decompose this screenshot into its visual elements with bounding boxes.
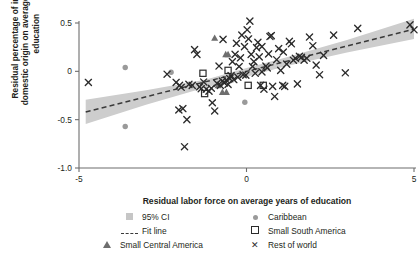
filled-triangle-icon [98, 240, 116, 250]
legend-item-rest-of-world: ✕ Rest of world [246, 240, 317, 250]
filled-circle-icon [246, 212, 264, 222]
legend-item-ci: 95% CI [120, 212, 246, 222]
svg-text:-5: -5 [75, 174, 83, 184]
x-marker-icon: ✕ [246, 240, 264, 250]
legend-label-ci: 95% CI [142, 212, 169, 222]
legend-label-small-central-america: Small Central America [120, 240, 203, 250]
ci-swatch-icon [120, 212, 138, 222]
legend-row: Small Central America ✕ Rest of world [120, 238, 390, 252]
scatter-plot-figure: 0.50-0.5-1.0-505 Residual percentage of … [0, 0, 420, 258]
svg-text:5: 5 [412, 174, 417, 184]
svg-text:0: 0 [67, 66, 72, 76]
legend-label-caribbean: Caribbean [268, 212, 307, 222]
svg-text:0: 0 [244, 174, 249, 184]
legend-row: Fit line Small South America [120, 224, 390, 238]
svg-text:-1.0: -1.0 [58, 163, 73, 173]
legend-item-small-central-america: Small Central America [98, 240, 246, 250]
legend: 95% CI Caribbean Fit line Small South Am… [120, 210, 390, 252]
legend-item-caribbean: Caribbean [246, 212, 307, 222]
x-axis-title: Residual labor force on average years of… [79, 196, 415, 206]
legend-row: 95% CI Caribbean [120, 210, 390, 224]
legend-label-rest-of-world: Rest of world [268, 240, 317, 250]
open-square-icon [246, 226, 264, 236]
legend-label-fit-line: Fit line [142, 226, 167, 236]
svg-text:0.5: 0.5 [60, 18, 72, 28]
legend-item-fit-line: Fit line [120, 226, 246, 236]
dashed-line-icon [120, 226, 138, 236]
y-axis-title: Residual percentage of inputs of domesti… [10, 0, 41, 111]
confidence-band [86, 19, 414, 124]
svg-text:-0.5: -0.5 [58, 115, 73, 125]
legend-item-small-south-america: Small South America [246, 226, 346, 236]
legend-label-small-south-america: Small South America [268, 226, 346, 236]
